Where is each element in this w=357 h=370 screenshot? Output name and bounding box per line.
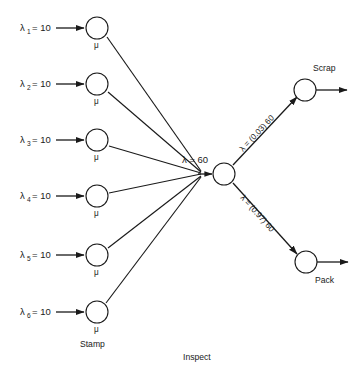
stamp-node-4 <box>86 185 108 207</box>
arrival-label-value-5: = 10 <box>32 249 51 260</box>
arrival-label-lambda-2: λ <box>20 78 25 89</box>
stamp-to-inspect-edges <box>106 37 201 303</box>
edge-stamp-5-inspect <box>108 176 201 248</box>
arrival-label-subscript-3: 3 <box>27 140 31 147</box>
scrap-node-label: Scrap <box>313 63 336 73</box>
arrival-label-subscript-5: 5 <box>27 255 31 262</box>
arrival-label-lambda-1: λ <box>20 22 25 33</box>
arrival-label-subscript-2: 2 <box>27 84 31 91</box>
stamp-node-circles <box>86 17 108 323</box>
service-symbol-2: μ <box>94 97 99 106</box>
edge-stamp-6-inspect <box>106 177 201 303</box>
arrival-label-value-3: = 10 <box>32 134 51 145</box>
arrival-label-lambda-6: λ <box>20 306 25 317</box>
stamp-node-5 <box>86 244 108 266</box>
service-symbol-3: μ <box>94 153 99 162</box>
branch-label-pack: λ = (0.97) 60 <box>239 193 277 234</box>
service-symbol-4: μ <box>94 209 99 218</box>
arrival-label-lambda-4: λ <box>20 190 25 201</box>
arrival-label-value-2: = 10 <box>32 78 51 89</box>
arrival-label-value-4: = 10 <box>32 190 51 201</box>
stamp-node-3 <box>86 129 108 151</box>
arrival-label-lambda-5: λ <box>20 249 25 260</box>
arrival-label-value-1: = 10 <box>32 22 51 33</box>
arrival-rate-labels: λ 1 = 10 λ 2 = 10 λ 3 = 10 λ 4 = 10 λ 5 … <box>20 22 51 319</box>
branch-label-scrap: λ = (0.03) 60 <box>238 113 276 153</box>
arrival-label-subscript-1: 1 <box>27 28 31 35</box>
inspect-stage-caption: Inspect <box>183 352 211 362</box>
stamp-stage-caption: Stamp <box>80 339 105 349</box>
stamp-node-1 <box>86 17 108 39</box>
service-symbol-6: μ <box>94 325 99 334</box>
arrival-label-lambda-3: λ <box>20 134 25 145</box>
diagram-canvas: λ 1 = 10 λ 2 = 10 λ 3 = 10 λ 4 = 10 λ 5 … <box>0 0 357 370</box>
service-symbol-1: μ <box>94 41 99 50</box>
service-symbol-5: μ <box>94 268 99 277</box>
pack-node-label: Pack <box>315 275 335 285</box>
pack-node <box>295 251 317 273</box>
stamp-node-2 <box>86 73 108 95</box>
queueing-network-diagram: λ 1 = 10 λ 2 = 10 λ 3 = 10 λ 4 = 10 λ 5 … <box>0 0 357 370</box>
arrival-label-subscript-6: 6 <box>27 312 31 319</box>
arrival-label-value-6: = 10 <box>32 306 51 317</box>
scrap-node <box>294 79 316 101</box>
arrival-arrows <box>56 28 84 312</box>
inspect-node <box>213 163 235 185</box>
inspect-combined-rate-label: λ = 60 <box>182 154 208 165</box>
arrival-label-subscript-4: 4 <box>27 196 31 203</box>
stamp-node-6 <box>86 301 108 323</box>
edge-stamp-4-inspect <box>109 174 201 193</box>
